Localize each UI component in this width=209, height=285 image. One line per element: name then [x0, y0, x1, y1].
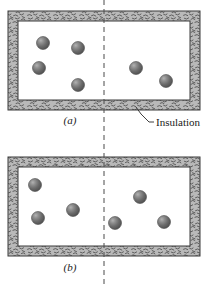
molecule: [33, 62, 46, 75]
molecule: [134, 191, 147, 204]
molecule: [109, 217, 122, 230]
molecule: [160, 75, 173, 88]
figure-container: (a) Insulation (b): [0, 0, 209, 285]
panel-b-label: (b): [64, 261, 77, 274]
insulated-container-figure: (a) Insulation (b): [0, 0, 209, 285]
panel-a-inner-cavity: [18, 21, 190, 100]
molecule: [72, 42, 85, 55]
molecule: [72, 79, 85, 92]
molecule: [158, 216, 171, 229]
molecule: [32, 212, 45, 225]
insulation-label: Insulation: [156, 116, 200, 128]
molecule: [67, 204, 80, 217]
molecule: [130, 62, 143, 75]
molecule: [37, 37, 50, 50]
panel-a-label: (a): [64, 114, 77, 127]
molecule: [29, 179, 42, 192]
